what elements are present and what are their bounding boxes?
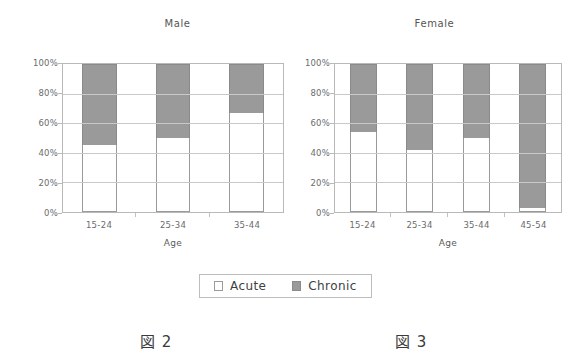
y-tick-label: 0% <box>296 208 330 218</box>
stacked-bar[interactable] <box>463 64 490 212</box>
x-tick-mark <box>62 213 136 217</box>
legend-label-chronic: Chronic <box>308 279 356 293</box>
bar-segment-chronic[interactable] <box>350 64 377 132</box>
bar-slot <box>448 64 505 212</box>
bar-segment-chronic[interactable] <box>406 64 433 150</box>
chart-legend: Acute Chronic <box>199 274 372 298</box>
bar-slot <box>63 64 136 212</box>
gridline <box>335 153 561 154</box>
x-tick-row-male <box>62 213 284 217</box>
legend-item-chronic: Chronic <box>292 279 356 293</box>
x-axis-category-label: 45-54 <box>505 220 562 230</box>
bar-segment-acute[interactable] <box>463 138 490 212</box>
y-tick-label: 60% <box>296 118 330 128</box>
y-tick-label: 60% <box>24 118 58 128</box>
chart-title-male: Male <box>0 18 325 29</box>
y-axis-male: 0%20%40%60%80%100% <box>22 63 58 213</box>
bar-group-female <box>335 64 561 212</box>
y-tick-label: 40% <box>296 148 330 158</box>
plot-area-male <box>62 63 284 213</box>
x-axis-category-label: 25-34 <box>391 220 448 230</box>
figure-caption-3: 図 3 <box>395 330 427 351</box>
bar-segment-acute[interactable] <box>156 138 190 212</box>
gridline <box>335 123 561 124</box>
acute-swatch-icon <box>214 281 223 291</box>
y-tick-label: 20% <box>24 178 58 188</box>
figure-container: Male 0%20%40%60%80%100% 15-2425-3435-44 … <box>0 0 577 364</box>
x-axis-category-label: 15-24 <box>62 220 136 230</box>
stacked-bar[interactable] <box>406 64 433 212</box>
gridline <box>63 123 283 124</box>
x-axis-title-male: Age <box>62 238 284 248</box>
bar-slot <box>335 64 392 212</box>
figure-caption-2: 図 2 <box>140 330 172 351</box>
bar-segment-acute[interactable] <box>350 132 377 212</box>
bar-slot <box>136 64 209 212</box>
x-axis-categories-male: 15-2425-3435-44 <box>62 220 284 230</box>
y-axis-female: 0%20%40%60%80%100% <box>292 63 330 213</box>
bar-segment-chronic[interactable] <box>156 64 190 138</box>
y-tick-label: 80% <box>24 88 58 98</box>
x-tick-mark <box>505 213 562 217</box>
bar-segment-acute[interactable] <box>519 208 546 212</box>
chart-panel-female: Female 0%20%40%60%80%100% 15-2425-3435-4… <box>292 0 577 265</box>
gridline <box>335 94 561 95</box>
x-axis-title-female: Age <box>334 238 562 248</box>
stacked-bar[interactable] <box>519 64 546 212</box>
y-tick-label: 40% <box>24 148 58 158</box>
bar-segment-chronic[interactable] <box>229 64 263 113</box>
legend-item-acute: Acute <box>214 279 266 293</box>
x-tick-mark <box>136 213 210 217</box>
x-axis-category-label: 15-24 <box>334 220 391 230</box>
x-axis-category-label: 25-34 <box>136 220 210 230</box>
chart-panel-male: Male 0%20%40%60%80%100% 15-2425-3435-44 … <box>0 0 295 265</box>
legend-label-acute: Acute <box>230 279 266 293</box>
x-tick-mark <box>448 213 505 217</box>
chronic-swatch-icon <box>292 281 301 291</box>
gridline <box>63 182 283 183</box>
bar-segment-acute[interactable] <box>82 145 116 212</box>
bar-segment-chronic[interactable] <box>519 64 546 208</box>
y-tick-label: 20% <box>296 178 330 188</box>
bar-group-male <box>63 64 283 212</box>
bar-segment-acute[interactable] <box>229 113 263 212</box>
x-tick-row-female <box>334 213 562 217</box>
y-tick-label: 80% <box>296 88 330 98</box>
stacked-bar[interactable] <box>82 64 116 212</box>
y-tick-label: 100% <box>24 58 58 68</box>
bar-slot <box>505 64 562 212</box>
x-tick-mark <box>391 213 448 217</box>
y-tick-label: 0% <box>24 208 58 218</box>
stacked-bar[interactable] <box>229 64 263 212</box>
gridline <box>335 182 561 183</box>
plot-area-female <box>334 63 562 213</box>
x-tick-mark <box>210 213 284 217</box>
x-axis-category-label: 35-44 <box>448 220 505 230</box>
x-axis-categories-female: 15-2425-3435-4445-54 <box>334 220 562 230</box>
bar-slot <box>210 64 283 212</box>
bar-segment-chronic[interactable] <box>82 64 116 145</box>
y-tick-label: 100% <box>296 58 330 68</box>
x-axis-category-label: 35-44 <box>210 220 284 230</box>
gridline <box>63 94 283 95</box>
stacked-bar[interactable] <box>350 64 377 212</box>
chart-title-female: Female <box>292 18 577 29</box>
gridline <box>63 153 283 154</box>
stacked-bar[interactable] <box>156 64 190 212</box>
bar-slot <box>392 64 449 212</box>
x-tick-mark <box>334 213 391 217</box>
bar-segment-acute[interactable] <box>406 150 433 212</box>
bar-segment-chronic[interactable] <box>463 64 490 138</box>
